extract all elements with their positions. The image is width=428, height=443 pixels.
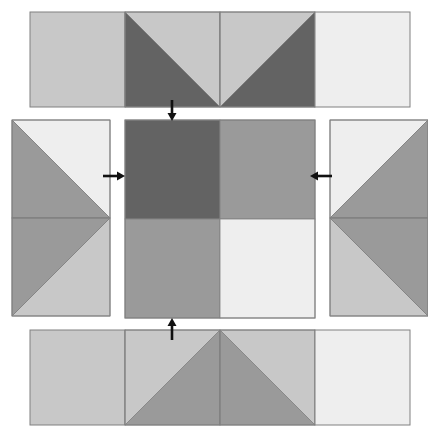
left-unit-1 [12,120,110,218]
bottom-unit-1-patch [30,330,125,425]
bottom-unit-4 [315,330,410,425]
center-four-patch [125,120,315,318]
quilt-diagram-canvas [0,0,428,443]
left-unit-2 [12,218,110,316]
center-quadrant-bottom-right [220,219,315,318]
right-unit-2 [330,218,428,316]
center-quadrant-bottom-left [125,219,220,318]
center-quadrant-top-right [220,120,315,219]
right-unit-1 [330,120,428,218]
bottom-unit-3 [220,330,315,425]
quilt-units-layer [12,12,428,425]
quilt-assembly-diagram [0,0,428,443]
bottom-unit-4-patch [315,330,410,425]
top-unit-2 [125,12,220,107]
bottom-unit-1 [30,330,125,425]
top-unit-4 [315,12,410,107]
bottom-unit-2 [125,330,220,425]
top-unit-4-patch [315,12,410,107]
top-unit-1 [30,12,125,107]
top-unit-1-patch [30,12,125,107]
center-quadrant-top-left [125,120,220,219]
top-unit-3 [220,12,315,107]
